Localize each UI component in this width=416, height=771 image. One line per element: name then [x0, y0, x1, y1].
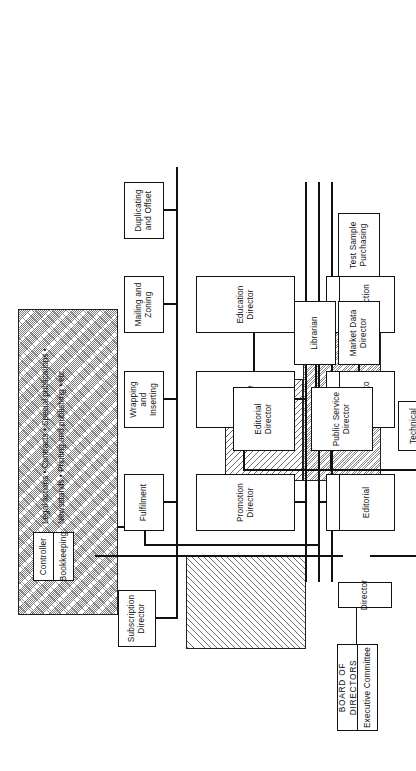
node-promotion-director[interactable]: PromotionDirector: [196, 474, 295, 531]
node-education-director[interactable]: EducationDirector: [196, 276, 295, 333]
node-technical-editor[interactable]: TechnicalEditor: [398, 401, 416, 451]
node-editorial-director[interactable]: EditorialDirector: [233, 387, 295, 451]
band-promotion-circulation: [186, 556, 306, 649]
node-fulfilment[interactable]: Fulfilment: [124, 474, 164, 531]
connector-director-lead-2: [318, 546, 320, 582]
connector-personnel-stub: [318, 501, 326, 503]
node-board-of-directors[interactable]: BOARD OF DIRECTORS: [337, 644, 358, 731]
connector-director-spine-down: [370, 555, 416, 557]
node-librarian[interactable]: Librarian: [294, 301, 336, 365]
node-controller[interactable]: Controller: [33, 532, 54, 581]
annotation-line-2: Newsstands • Printing and publishing • e…: [56, 369, 68, 524]
connector-publicservice-in: [330, 451, 332, 471]
node-mailing-and-zoning[interactable]: Mailing andZoning: [124, 276, 164, 333]
node-market-data-director[interactable]: Market DataDirector: [338, 301, 380, 365]
annotation-line-1: Legal actions • Contracts • Special publ…: [40, 348, 52, 524]
connector-duplicating-stub: [164, 209, 178, 211]
connector-librarian-in: [315, 365, 317, 387]
connector-mailing-stub: [164, 303, 178, 305]
connector-editorialdir-in: [243, 451, 245, 471]
connector-subscription-down: [144, 544, 319, 546]
connector-groupservice-stub: [295, 398, 307, 400]
connector-controller-stub: [95, 555, 117, 557]
connector-promotion-stub: [295, 501, 307, 503]
connector-promotion-trunk: [305, 182, 307, 582]
node-bookkeeping[interactable]: Bookkeeping: [53, 532, 74, 581]
node-director[interactable]: Director: [338, 582, 392, 608]
node-test-sample-purchasing[interactable]: Test SamplePurchasing: [338, 213, 380, 277]
node-editorial[interactable]: Editorial: [339, 474, 395, 531]
connector-fulfilment-stub: [164, 501, 178, 503]
connector-director-lead-3: [331, 546, 333, 582]
node-subscription-director[interactable]: SubscriptionDirector: [118, 590, 156, 647]
node-wrapping-and-inserting[interactable]: Wrapping andInserting: [124, 371, 164, 428]
connector-fulfilment-trunk: [176, 167, 178, 619]
node-executive-committee[interactable]: Executive Committee: [357, 644, 378, 731]
org-chart-canvas: BOARD OF DIRECTORS Executive Committee D…: [0, 0, 416, 771]
connector-exec-director: [356, 608, 357, 644]
node-duplicating-and-offset[interactable]: Duplicatingand Offset: [124, 182, 164, 239]
node-public-service-director[interactable]: Public ServiceDirector: [311, 387, 373, 451]
connector-wrapping-stub: [164, 398, 178, 400]
